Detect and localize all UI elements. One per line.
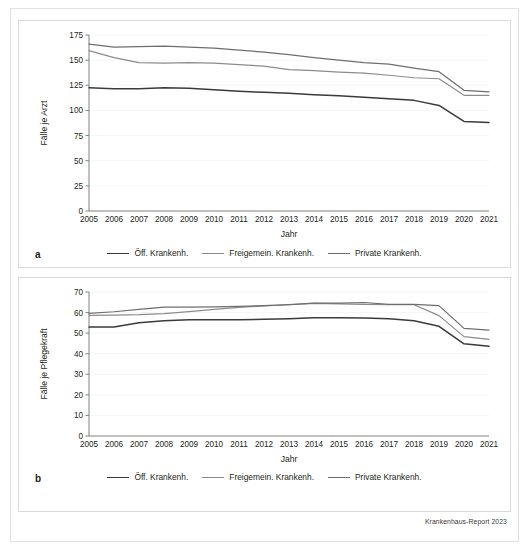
x-tick-label: 2011 — [230, 440, 248, 449]
x-tick-label: 2020 — [455, 440, 474, 449]
x-tick-label: 2007 — [130, 215, 149, 224]
y-tick-label: 70 — [74, 288, 84, 297]
plot-area-a: 0255075100125150175Fälle je Arzt20052006… — [19, 21, 510, 267]
legend-swatch-private-krankenh-b — [328, 477, 350, 478]
chart-panel-b: 010203040506070Fälle je Pflegekraft20052… — [18, 277, 511, 512]
x-tick-label: 2020 — [455, 215, 474, 224]
x-tick-label: 2018 — [405, 215, 424, 224]
x-tick-label: 2006 — [105, 215, 124, 224]
y-tick-label: 20 — [74, 391, 84, 400]
x-tick-label: 2006 — [105, 440, 124, 449]
legend-swatch-private-krankenh — [328, 253, 350, 254]
x-tick-label: 2007 — [130, 440, 149, 449]
y-tick-label: 125 — [69, 81, 83, 90]
legend-label-freigemein-krankenh: Freigemein. Krankenh. — [229, 248, 314, 258]
y-tick-label: 175 — [69, 31, 83, 40]
x-tick-label: 2019 — [430, 215, 449, 224]
legend-swatch-oeff-krankenh — [107, 253, 129, 254]
x-tick-label: 2016 — [355, 215, 374, 224]
legend-item-oeff-krankenh-b: Öff. Krankenh. — [107, 472, 188, 482]
x-tick-label: 2016 — [355, 440, 374, 449]
series-line-2 — [89, 44, 489, 92]
legend-label-oeff-krankenh: Öff. Krankenh. — [134, 248, 188, 258]
legend-swatch-freigemein-krankenh-b — [202, 477, 224, 478]
x-tick-label: 2011 — [230, 215, 248, 224]
y-axis-title: Fälle je Arzt — [39, 100, 49, 146]
y-tick-label: 150 — [69, 56, 83, 65]
y-tick-label: 40 — [74, 350, 84, 359]
x-tick-label: 2013 — [280, 215, 299, 224]
x-tick-label: 2010 — [205, 440, 224, 449]
legend-item-private-krankenh: Private Krankenh. — [328, 248, 422, 258]
x-tick-label: 2008 — [155, 440, 174, 449]
x-axis-title: Jahr — [281, 229, 298, 239]
x-tick-label: 2021 — [480, 215, 499, 224]
y-tick-label: 75 — [74, 132, 84, 141]
series-line-0 — [89, 88, 489, 123]
x-tick-label: 2019 — [430, 440, 449, 449]
x-tick-label: 2014 — [305, 440, 324, 449]
x-tick-label: 2005 — [80, 440, 99, 449]
x-tick-label: 2009 — [180, 215, 199, 224]
line-chart-a: 0255075100125150175Fälle je Arzt20052006… — [19, 21, 510, 267]
x-tick-label: 2018 — [405, 440, 424, 449]
chart-legend-a: Öff. Krankenh. Freigemein. Krankenh. Pri… — [19, 248, 510, 258]
chart-legend-b: Öff. Krankenh. Freigemein. Krankenh. Pri… — [19, 472, 510, 482]
legend-label-freigemein-krankenh-b: Freigemein. Krankenh. — [229, 472, 314, 482]
x-tick-label: 2015 — [330, 215, 349, 224]
legend-swatch-oeff-krankenh-b — [107, 477, 129, 478]
x-tick-label: 2008 — [155, 215, 174, 224]
legend-item-freigemein-krankenh: Freigemein. Krankenh. — [202, 248, 314, 258]
x-tick-label: 2017 — [380, 440, 399, 449]
x-tick-label: 2017 — [380, 215, 399, 224]
x-tick-label: 2012 — [255, 215, 274, 224]
legend-label-oeff-krankenh-b: Öff. Krankenh. — [134, 472, 188, 482]
y-tick-label: 10 — [74, 411, 84, 420]
x-tick-label: 2010 — [205, 215, 224, 224]
x-tick-label: 2014 — [305, 215, 324, 224]
y-tick-label: 100 — [69, 106, 83, 115]
legend-label-private-krankenh-b: Private Krankenh. — [355, 472, 422, 482]
legend-item-freigemein-krankenh-b: Freigemein. Krankenh. — [202, 472, 314, 482]
series-line-0 — [89, 318, 489, 347]
legend-item-oeff-krankenh: Öff. Krankenh. — [107, 248, 188, 258]
x-tick-label: 2021 — [480, 440, 499, 449]
y-tick-label: 30 — [74, 370, 84, 379]
chart-panel-a: 0255075100125150175Fälle je Arzt20052006… — [18, 20, 511, 268]
x-tick-label: 2013 — [280, 440, 299, 449]
x-tick-label: 2012 — [255, 440, 274, 449]
series-line-2 — [89, 302, 489, 330]
y-tick-label: 50 — [74, 157, 84, 166]
legend-swatch-freigemein-krankenh — [202, 253, 224, 254]
y-tick-label: 60 — [74, 309, 84, 318]
x-axis-title: Jahr — [281, 454, 298, 464]
legend-item-private-krankenh-b: Private Krankenh. — [328, 472, 422, 482]
x-tick-label: 2015 — [330, 440, 349, 449]
x-tick-label: 2009 — [180, 440, 199, 449]
figure-page: 0255075100125150175Fälle je Arzt20052006… — [0, 0, 529, 558]
y-axis-title: Fälle je Pflegekraft — [39, 328, 49, 400]
y-tick-label: 25 — [74, 182, 84, 191]
legend-label-private-krankenh: Private Krankenh. — [355, 248, 422, 258]
y-tick-label: 50 — [74, 329, 84, 338]
source-note: Krankenhaus-Report 2023 — [425, 518, 507, 525]
x-tick-label: 2005 — [80, 215, 99, 224]
